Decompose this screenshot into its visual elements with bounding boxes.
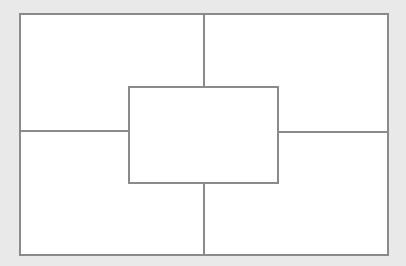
left-horizontal-divider	[19, 130, 130, 132]
organizer-diagram	[0, 0, 406, 266]
center-box	[128, 86, 279, 184]
right-horizontal-divider	[277, 131, 387, 133]
top-vertical-divider	[203, 13, 205, 88]
bottom-vertical-divider	[203, 182, 205, 254]
